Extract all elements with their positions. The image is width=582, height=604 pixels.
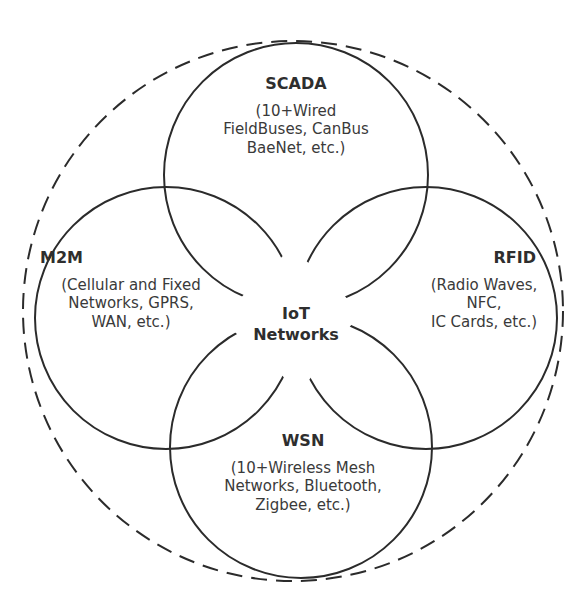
m2m-title: M2M bbox=[36, 248, 226, 268]
scada-title: SCADA bbox=[196, 74, 396, 94]
m2m-desc-3: WAN, etc.) bbox=[36, 313, 226, 331]
m2m-desc-1: (Cellular and Fixed bbox=[36, 276, 226, 294]
wsn-title: WSN bbox=[193, 431, 413, 451]
rfid-desc-1: (Radio Waves, bbox=[404, 276, 564, 294]
wsn-label: WSN (10+Wireless Mesh Networks, Bluetoot… bbox=[193, 431, 413, 514]
center-label: IoT Networks bbox=[241, 304, 351, 346]
wsn-desc-1: (10+Wireless Mesh bbox=[193, 459, 413, 477]
center-label-line1: IoT bbox=[241, 304, 351, 325]
m2m-desc-2: Networks, GPRS, bbox=[36, 294, 226, 312]
scada-desc-1: (10+Wired bbox=[196, 102, 396, 120]
scada-label: SCADA (10+Wired FieldBuses, CanBus BaeNe… bbox=[196, 74, 396, 157]
wsn-desc-2: Networks, Bluetooth, bbox=[193, 477, 413, 495]
rfid-title: RFID bbox=[404, 248, 564, 268]
rfid-desc-2: NFC, bbox=[404, 294, 564, 312]
wsn-desc-3: Zigbee, etc.) bbox=[193, 496, 413, 514]
scada-desc-3: BaeNet, etc.) bbox=[196, 139, 396, 157]
center-label-line2: Networks bbox=[241, 325, 351, 346]
scada-desc-2: FieldBuses, CanBus bbox=[196, 120, 396, 138]
m2m-label: M2M (Cellular and Fixed Networks, GPRS, … bbox=[36, 248, 226, 331]
rfid-label: RFID (Radio Waves, NFC, IC Cards, etc.) bbox=[404, 248, 564, 331]
rfid-desc-3: IC Cards, etc.) bbox=[404, 313, 564, 331]
